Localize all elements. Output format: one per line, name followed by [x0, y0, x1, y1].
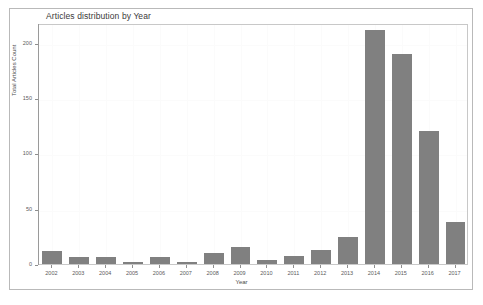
x-tick-label: 2004 — [99, 270, 111, 276]
bar — [69, 257, 89, 264]
x-tick-mark — [132, 265, 133, 268]
bar — [123, 262, 143, 264]
x-tick-label: 2009 — [233, 270, 245, 276]
x-tick-mark — [105, 265, 106, 268]
x-tick-label: 2007 — [180, 270, 192, 276]
x-tick-mark — [240, 265, 241, 268]
x-tick-mark — [455, 265, 456, 268]
bar — [338, 237, 358, 264]
x-tick-mark — [320, 265, 321, 268]
y-tick-label: 0 — [0, 261, 32, 267]
x-tick-label: 2013 — [341, 270, 353, 276]
x-tick-label: 2014 — [368, 270, 380, 276]
y-tick-label: 50 — [0, 206, 32, 212]
bar — [419, 131, 439, 264]
bar — [150, 257, 170, 264]
bar — [96, 257, 116, 264]
x-tick-mark — [159, 265, 160, 268]
chart-figure: Articles distribution by Year 0501001502… — [0, 0, 483, 305]
x-axis-title: Year — [0, 279, 483, 285]
y-tick-label: 100 — [0, 150, 32, 156]
bar — [392, 54, 412, 264]
y-tick-mark — [35, 210, 38, 211]
x-tick-label: 2010 — [260, 270, 272, 276]
x-tick-mark — [186, 265, 187, 268]
bar — [231, 247, 251, 264]
x-tick-mark — [428, 265, 429, 268]
x-tick-label: 2016 — [422, 270, 434, 276]
plot-area — [38, 24, 468, 265]
x-tick-mark — [293, 265, 294, 268]
bar — [177, 262, 197, 264]
y-tick-mark — [35, 154, 38, 155]
x-tick-mark — [51, 265, 52, 268]
bar-series — [39, 25, 467, 264]
bar — [42, 251, 62, 264]
x-tick-label: 2011 — [287, 270, 299, 276]
x-tick-mark — [78, 265, 79, 268]
y-tick-mark — [35, 44, 38, 45]
bar — [204, 253, 224, 264]
x-tick-label: 2005 — [126, 270, 138, 276]
x-tick-label: 2012 — [314, 270, 326, 276]
x-tick-label: 2008 — [207, 270, 219, 276]
bar — [311, 250, 331, 264]
y-axis-title: Total Articles Count — [11, 45, 17, 96]
x-tick-label: 2002 — [45, 270, 57, 276]
x-tick-mark — [401, 265, 402, 268]
x-tick-label: 2003 — [72, 270, 84, 276]
x-tick-mark — [374, 265, 375, 268]
y-axis-line — [38, 24, 39, 265]
bar — [365, 30, 385, 264]
x-tick-mark — [213, 265, 214, 268]
x-tick-mark — [347, 265, 348, 268]
x-tick-label: 2006 — [153, 270, 165, 276]
bar — [446, 222, 466, 264]
x-tick-label: 2015 — [395, 270, 407, 276]
bar — [284, 256, 304, 264]
y-tick-mark — [35, 99, 38, 100]
y-tick-mark — [35, 265, 38, 266]
bar — [257, 260, 277, 264]
x-tick-mark — [266, 265, 267, 268]
x-tick-label: 2017 — [448, 270, 460, 276]
y-tick-label: 150 — [0, 95, 32, 101]
chart-title: Articles distribution by Year — [46, 11, 151, 21]
